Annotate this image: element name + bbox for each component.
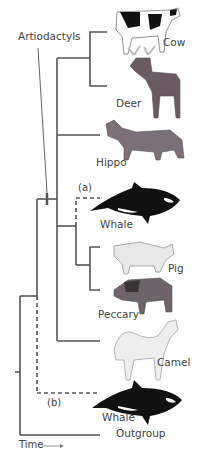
taxon-label-deer: Deer: [116, 97, 141, 109]
camel-illustration: [114, 320, 178, 380]
branch-pig-peccary: [90, 247, 100, 290]
hippo-illustration: [106, 120, 184, 160]
time-axis-label: Time: [19, 439, 43, 450]
taxon-label-whale-b: Whale: [102, 411, 135, 423]
taxon-label-camel: Camel: [157, 356, 190, 368]
placement-label-b: (b): [47, 397, 61, 408]
taxon-label-peccary: Peccary: [98, 308, 139, 320]
branch-cow-deer: [90, 32, 107, 86]
pig-illustration: [114, 242, 174, 274]
placement-label-a: (a): [78, 182, 92, 193]
taxon-label-hippo: Hippo: [96, 156, 127, 168]
taxon-label-pig: Pig: [168, 262, 184, 274]
clade-label-artiodactyls: Artiodactyls: [18, 30, 81, 42]
taxon-label-cow: Cow: [163, 36, 185, 48]
taxon-label-outgroup: Outgroup: [116, 427, 166, 439]
taxon-label-whale-a: Whale: [100, 218, 133, 230]
tree-diagram: [0, 0, 197, 457]
